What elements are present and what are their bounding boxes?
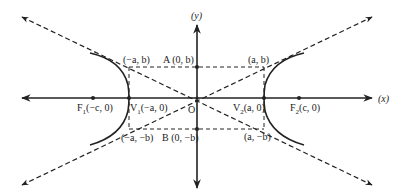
corner-bottom-left-label: (−a, −b) xyxy=(121,132,153,144)
focus-2-dot xyxy=(297,96,301,100)
vertex-2-label: V2(a, 0) xyxy=(233,102,265,116)
focus-1-dot xyxy=(91,96,95,100)
point-b-label: B (0, −b) xyxy=(162,132,198,144)
focus-2-label: F2(c, 0) xyxy=(290,102,320,116)
origin-dot xyxy=(196,97,199,100)
point-a-dot xyxy=(195,65,199,69)
vertex-1-label: V1(−a, 0) xyxy=(130,102,167,116)
corner-top-left-label: (−a, b) xyxy=(123,54,150,66)
vertex-1-dot xyxy=(127,96,131,100)
point-a-label: A (0, b) xyxy=(163,54,194,66)
corner-top-right-label: (a, b) xyxy=(248,54,269,66)
focus-1-label: F1(−c, 0) xyxy=(77,102,113,116)
hyperbola-diagram: (y) (x) O (−a, b) A (0, b) (a, b) (−a, −… xyxy=(0,0,402,195)
y-axis-label: (y) xyxy=(191,10,203,22)
point-b-dot xyxy=(195,127,199,131)
corner-bottom-right-label: (a, −b) xyxy=(244,131,271,143)
x-axis-label: (x) xyxy=(378,93,390,105)
origin-label: O xyxy=(188,104,195,115)
vertex-2-dot xyxy=(262,96,266,100)
